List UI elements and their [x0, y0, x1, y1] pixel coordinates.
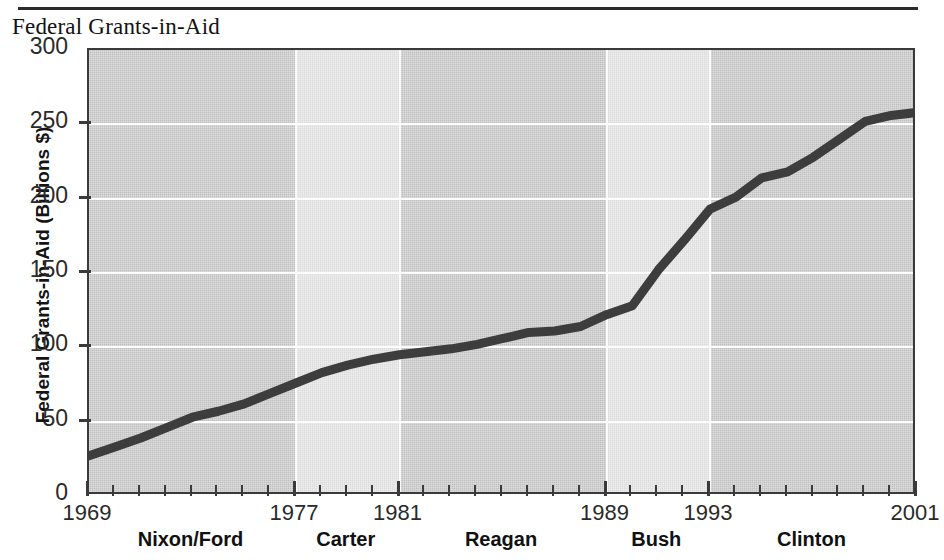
x-tick-1972	[164, 485, 166, 496]
x-tick-1999	[862, 485, 864, 496]
x-tick-1982	[422, 485, 424, 496]
x-tick-1995	[759, 485, 761, 496]
y-tick-label-50: 50	[4, 405, 68, 432]
x-tick-1985	[500, 485, 502, 496]
y-tick-label-250: 250	[4, 107, 68, 134]
x-tick-2000	[888, 485, 890, 496]
y-tick-label-200: 200	[4, 182, 68, 209]
x-tick-1987	[552, 485, 554, 496]
x-tick-1979	[345, 485, 347, 496]
x-tick-1984	[474, 485, 476, 496]
x-tick-1971	[138, 485, 140, 496]
x-tick-1992	[681, 485, 683, 496]
plot-area	[87, 48, 915, 494]
x-tick-1988	[578, 485, 580, 496]
x-tick-label-1969: 1969	[42, 500, 132, 526]
x-tick-1977	[293, 481, 296, 496]
x-tick-1986	[526, 485, 528, 496]
x-tick-1996	[785, 485, 787, 496]
x-tick-label-1977: 1977	[249, 500, 339, 526]
x-tick-1976	[267, 485, 269, 496]
x-tick-label-1981: 1981	[353, 500, 443, 526]
x-tick-1973	[190, 485, 192, 496]
x-tick-1989	[604, 481, 607, 496]
x-tick-label-1989: 1989	[560, 500, 650, 526]
x-tick-1997	[811, 485, 813, 496]
y-tick-label-300: 300	[4, 33, 68, 60]
y-tick-50	[79, 419, 91, 422]
series-line	[89, 50, 915, 494]
x-tick-label-1993: 1993	[663, 500, 753, 526]
x-tick-1998	[836, 485, 838, 496]
x-tick-1969	[86, 481, 89, 496]
x-tick-label-2001: 2001	[870, 500, 944, 526]
x-tick-1993	[707, 481, 710, 496]
y-tick-200	[79, 196, 91, 199]
x-tick-1978	[319, 485, 321, 496]
x-tick-1975	[241, 485, 243, 496]
x-tick-2001	[914, 481, 917, 496]
x-tick-1981	[397, 481, 400, 496]
x-tick-1990	[629, 485, 631, 496]
x-tick-1980	[371, 485, 373, 496]
x-tick-1974	[215, 485, 217, 496]
era-label-clinton: Clinton	[712, 528, 912, 551]
y-tick-label-100: 100	[4, 330, 68, 357]
y-tick-150	[79, 270, 91, 273]
y-tick-250	[79, 121, 91, 124]
y-tick-label-150: 150	[4, 256, 68, 283]
x-tick-1994	[733, 485, 735, 496]
x-tick-1991	[655, 485, 657, 496]
x-tick-1983	[448, 485, 450, 496]
x-tick-1970	[112, 485, 114, 496]
y-tick-100	[79, 344, 91, 347]
series-polyline	[89, 112, 915, 455]
